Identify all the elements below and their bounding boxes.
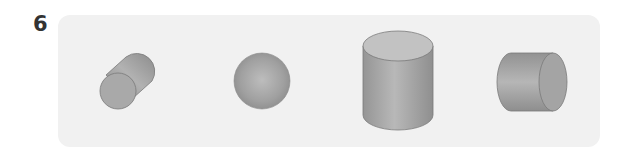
upright-cylinder-shape [361,29,435,133]
horizontal-cylinder-shape [495,51,571,113]
sphere-shape [232,51,292,111]
shapes-panel [58,15,600,147]
question-number: 6 [33,12,48,36]
tilted-cylinder-shape [98,53,160,113]
